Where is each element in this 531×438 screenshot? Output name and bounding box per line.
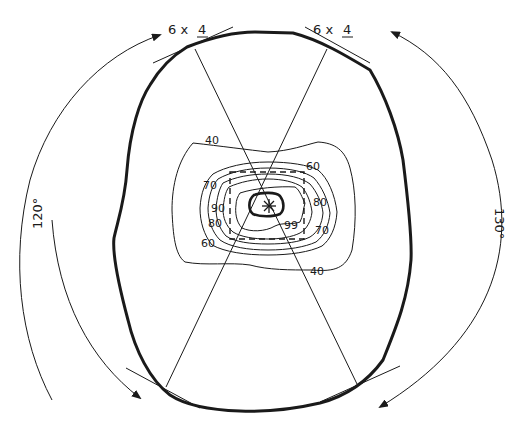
contour-label: 70 bbox=[203, 179, 217, 192]
top-label-left: 6 x 4 bbox=[168, 22, 208, 37]
meridian-lines bbox=[166, 49, 357, 387]
contour-label: 40 bbox=[310, 265, 324, 278]
contour-label: 80 bbox=[313, 196, 327, 209]
contour-label: 99 bbox=[284, 219, 298, 232]
arrow-down-left-icon bbox=[52, 220, 140, 398]
contour-label: 60 bbox=[201, 237, 215, 250]
top-label-prefix: 6 x bbox=[168, 22, 188, 37]
contour-label: 40 bbox=[205, 134, 219, 147]
right-angle-arc bbox=[380, 32, 502, 407]
tangent-lines bbox=[126, 27, 400, 408]
contour-label: 90 bbox=[211, 202, 225, 215]
arrow-down-right-icon bbox=[380, 160, 502, 407]
visual-field-diagram: 40 60 70 80 90 80 99 70 60 40 6 x 4 6 x … bbox=[0, 0, 531, 438]
left-angle-label: 120° bbox=[30, 198, 45, 229]
field-boundary bbox=[114, 32, 411, 411]
right-angle-label: 130° bbox=[492, 208, 507, 239]
arrow-up-right-icon bbox=[392, 32, 492, 160]
top-label-prefix: 6 x bbox=[313, 22, 333, 37]
top-label-right: 6 x 4 bbox=[313, 22, 353, 37]
top-label-value: 4 bbox=[343, 22, 351, 37]
contour-label: 80 bbox=[208, 217, 222, 230]
top-label-value: 4 bbox=[198, 22, 206, 37]
fixation-point-icon bbox=[262, 199, 276, 213]
contour-label: 60 bbox=[306, 160, 320, 173]
contour-label: 70 bbox=[315, 224, 329, 237]
